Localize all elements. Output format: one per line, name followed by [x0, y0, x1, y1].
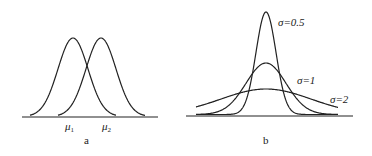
caption-b: b — [263, 134, 269, 146]
normal-distribution-figure: μ1 μ2 a σ=0.5 σ=1 σ=2 b — [0, 0, 372, 156]
panel-a: μ1 μ2 a — [22, 38, 158, 146]
label-sigma-2: σ=2 — [330, 93, 349, 105]
caption-a: a — [84, 134, 89, 146]
curve-sigma-2 — [196, 89, 338, 107]
label-sigma-1: σ=1 — [297, 74, 315, 86]
panel-b: σ=0.5 σ=1 σ=2 b — [186, 12, 353, 146]
label-mu2: μ2 — [101, 120, 112, 134]
label-mu1: μ1 — [64, 120, 75, 134]
label-sigma-0.5: σ=0.5 — [278, 16, 305, 28]
